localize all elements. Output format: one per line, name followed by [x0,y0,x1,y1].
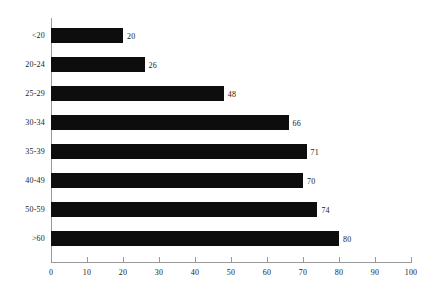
x-tick-label: 70 [283,268,323,277]
x-tick-label: 50 [211,268,251,277]
y-axis-line [51,18,52,262]
bar-value-label: 74 [321,205,329,214]
x-tick-mark [159,257,160,262]
x-tick-mark [195,257,196,262]
x-axis-line [51,262,412,263]
bar-row: 80 [51,231,411,246]
bar [51,173,303,188]
x-tick-label: 80 [319,268,359,277]
bar-value-label: 70 [307,176,315,185]
x-tick-mark [231,257,232,262]
x-tick-mark [303,257,304,262]
bar [51,28,123,43]
bar [51,115,289,130]
bar-row: 26 [51,57,411,72]
category-label: <20 [0,31,45,40]
bar-value-label: 26 [149,60,157,69]
bar [51,231,339,246]
bar-row: 70 [51,173,411,188]
bar [51,202,317,217]
bar-row: 48 [51,86,411,101]
x-tick-label: 30 [139,268,179,277]
bar-row: 71 [51,144,411,159]
category-label: 35-39 [0,147,45,156]
x-tick-label: 100 [391,268,431,277]
bar [51,86,224,101]
category-label: 30-34 [0,118,45,127]
x-tick-label: 60 [247,268,287,277]
bar-row: 20 [51,28,411,43]
x-tick-mark [123,257,124,262]
x-tick-mark [375,257,376,262]
category-label: 25-29 [0,89,45,98]
bar [51,144,307,159]
bar-value-label: 20 [127,31,135,40]
bar-row: 66 [51,115,411,130]
bar-row: 74 [51,202,411,217]
x-tick-label: 0 [31,268,71,277]
x-tick-mark [339,257,340,262]
bar-value-label: 80 [343,234,351,243]
x-tick-label: 10 [67,268,107,277]
bar-chart: <2020-2425-2930-3435-3940-4950-59>60 202… [0,0,441,294]
category-label: 20-24 [0,60,45,69]
category-label: >60 [0,234,45,243]
bar-value-label: 71 [311,147,319,156]
x-tick-mark [51,257,52,262]
category-label: 50-59 [0,205,45,214]
x-tick-label: 20 [103,268,143,277]
bar-value-label: 48 [228,89,236,98]
x-tick-label: 90 [355,268,395,277]
category-label: 40-49 [0,176,45,185]
x-tick-mark [87,257,88,262]
bar [51,57,145,72]
x-tick-mark [411,257,412,262]
bar-value-label: 66 [293,118,301,127]
x-tick-mark [267,257,268,262]
x-tick-label: 40 [175,268,215,277]
